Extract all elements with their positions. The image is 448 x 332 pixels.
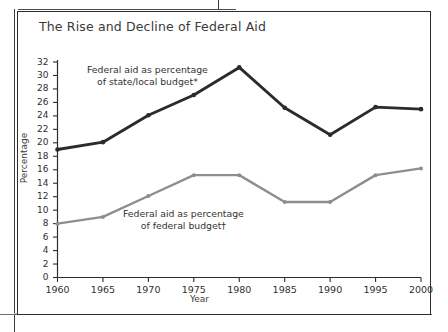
- annotation-lower-line-2: of federal budget†: [123, 220, 244, 232]
- series-data-point: [282, 105, 287, 110]
- line-chart-plot-area: Percentage Year 024681012141618202224262…: [0, 0, 448, 332]
- annotation-lower-line-1: Federal aid as percentage: [123, 208, 244, 220]
- series-data-point: [328, 132, 333, 137]
- annotation-federal-series: Federal aid as percentage of federal bud…: [123, 208, 244, 232]
- series-data-point: [374, 173, 378, 177]
- annotation-upper-line-2: of state/local budget*: [87, 76, 208, 88]
- series-data-point: [419, 107, 424, 112]
- series-data-point: [283, 200, 287, 204]
- x-axis-ticks: [58, 278, 422, 283]
- series-data-point: [328, 200, 332, 204]
- chart-svg: [0, 0, 448, 332]
- series-data-point: [237, 173, 241, 177]
- series-data-point: [192, 173, 196, 177]
- series-data-point: [56, 222, 60, 226]
- series-data-point: [55, 147, 60, 152]
- series-data-point: [101, 215, 105, 219]
- y-axis-ticks: [53, 62, 58, 278]
- axis-lines: [58, 60, 422, 278]
- series-data-point: [419, 166, 423, 170]
- annotation-upper-line-1: Federal aid as percentage: [87, 64, 208, 76]
- series-data-point: [101, 140, 106, 145]
- series-data-point: [146, 194, 150, 198]
- data-series-layer: [55, 65, 423, 226]
- series-data-point: [192, 93, 197, 98]
- annotation-state-local-series: Federal aid as percentage of state/local…: [87, 64, 208, 88]
- series-data-point: [237, 65, 242, 70]
- series-data-point: [373, 105, 378, 110]
- series-data-point: [146, 113, 151, 118]
